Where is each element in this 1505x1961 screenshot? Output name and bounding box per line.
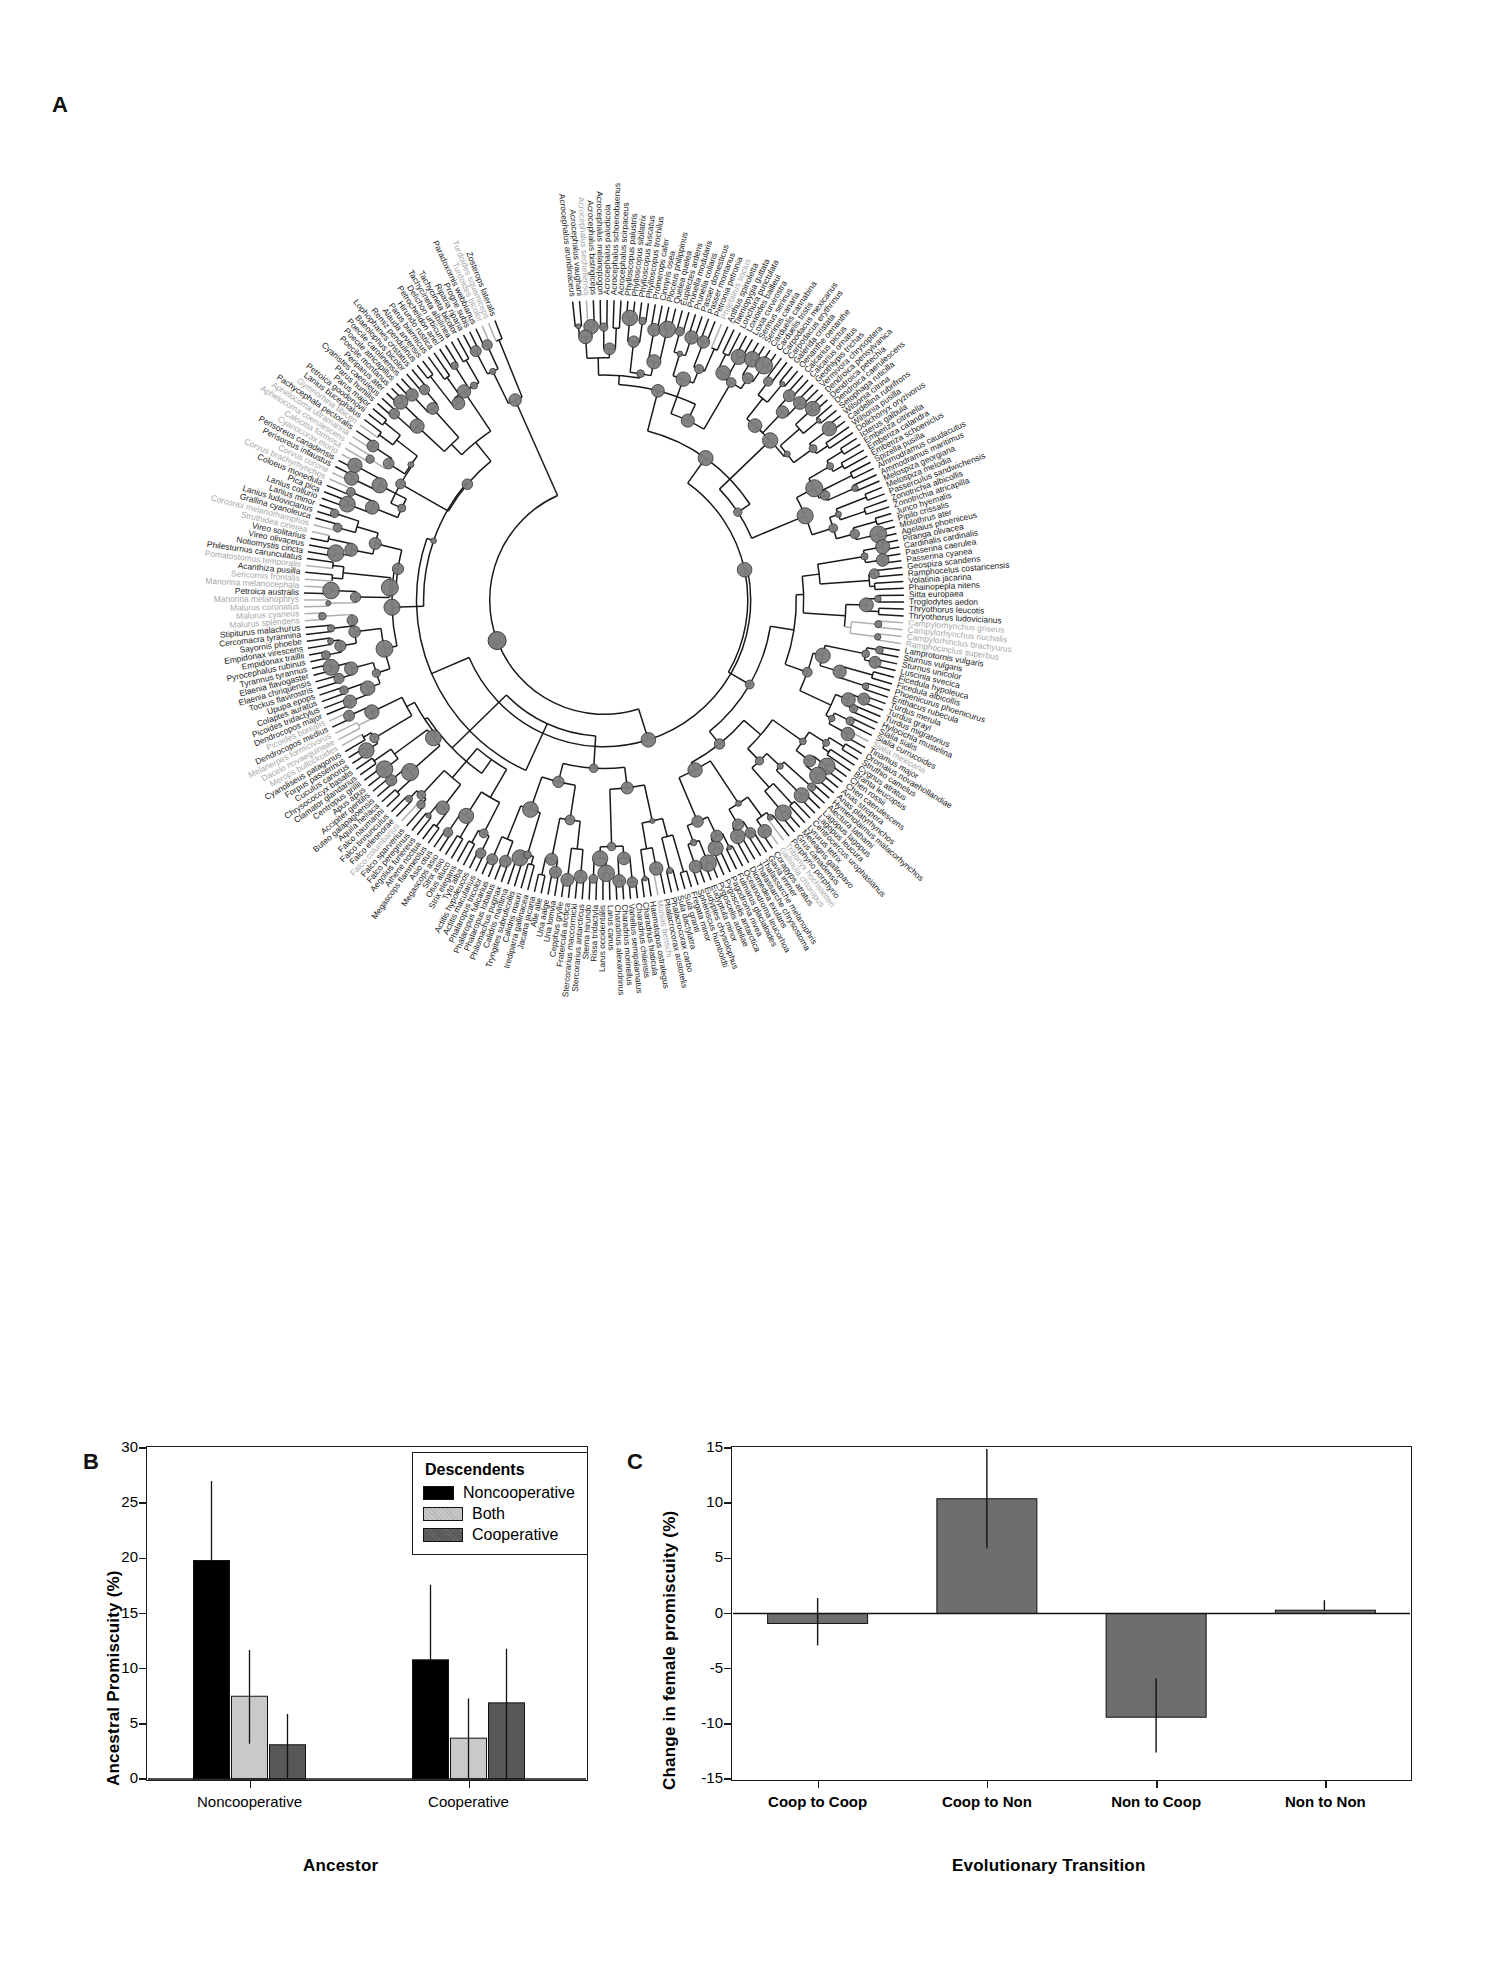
tip-label: Larus canus — [606, 905, 617, 951]
legend-label-noncooperative: Noncooperative — [463, 1485, 575, 1501]
panel-b-y-tick-mark — [139, 1668, 146, 1670]
panel-c-category-label: Coop to Non — [897, 1793, 1077, 1810]
panel-c-plot-frame — [731, 1446, 1412, 1781]
panel-b-y-tick-mark — [139, 1502, 146, 1504]
panel-c-y-tick-mark — [724, 1447, 731, 1449]
panel-c-x-tick-mark — [1156, 1781, 1158, 1788]
panel-b-y-tick-mark — [139, 1778, 146, 1780]
legend-item-both: Both — [423, 1504, 575, 1524]
panel-b-y-tick-mark — [139, 1613, 146, 1615]
panel-c-y-axis-title: Change in female promiscuity (%) — [660, 1511, 680, 1790]
panel-c-category-label: Non to Coop — [1066, 1793, 1246, 1810]
panel-b-y-tick-label: 15 — [100, 1604, 138, 1621]
panel-c-category-label: Coop to Coop — [728, 1793, 908, 1810]
panel-b-letter: B — [83, 1449, 99, 1475]
legend-item-noncooperative: Noncooperative — [423, 1483, 575, 1503]
panel-b-y-tick-label: 20 — [100, 1548, 138, 1565]
legend-swatch-both — [423, 1507, 463, 1521]
panel-b-category-label: Noncooperative — [155, 1793, 345, 1810]
panel-c-y-tick-mark — [724, 1778, 731, 1780]
panel-c-y-tick-mark — [724, 1613, 731, 1615]
panel-c-x-tick-mark — [818, 1781, 820, 1788]
panel-c-letter: C — [627, 1449, 643, 1475]
panel-b-x-axis-title: Ancestor — [303, 1856, 378, 1876]
panel-a-phylogeny: Acrocephalus arundinaceusAcrocephalus va… — [0, 60, 1505, 1100]
panel-b-bar — [413, 1660, 449, 1779]
panel-c-y-tick-label: 5 — [681, 1548, 723, 1565]
phylogenetic-tree-svg: Acrocephalus arundinaceusAcrocephalus va… — [0, 60, 1505, 1100]
panel-c-y-tick-label: 0 — [681, 1604, 723, 1621]
panel-c-y-tick-mark — [724, 1668, 731, 1670]
panel-b-bar — [194, 1561, 230, 1779]
panel-b-legend: Descendents Noncooperative Both Cooperat… — [412, 1452, 588, 1555]
panel-c-x-axis-title: Evolutionary Transition — [952, 1856, 1146, 1876]
panel-c-y-tick-mark — [724, 1558, 731, 1560]
panel-b-y-tick-label: 25 — [100, 1493, 138, 1510]
legend-swatch-cooperative — [423, 1528, 463, 1542]
legend-label-cooperative: Cooperative — [472, 1527, 558, 1543]
legend-title: Descendents — [425, 1461, 575, 1479]
panel-b-y-tick-label: 10 — [100, 1659, 138, 1676]
panel-c-y-tick-mark — [724, 1502, 731, 1504]
panel-c-y-tick-label: -10 — [681, 1714, 723, 1731]
panel-b-category-label: Cooperative — [374, 1793, 564, 1810]
legend-label-both: Both — [472, 1506, 505, 1522]
panel-c-y-tick-label: -15 — [681, 1769, 723, 1786]
panel-c-y-tick-mark — [724, 1723, 731, 1725]
panel-b-y-tick-mark — [139, 1558, 146, 1560]
panel-c-y-tick-label: 15 — [681, 1438, 723, 1455]
panel-b-y-tick-mark — [139, 1723, 146, 1725]
panel-c-category-label: Non to Non — [1235, 1793, 1415, 1810]
panel-b-y-tick-label: 30 — [100, 1438, 138, 1455]
legend-swatch-noncooperative — [423, 1486, 454, 1500]
panel-a-letter: A — [52, 92, 68, 118]
panel-c-y-tick-label: -5 — [681, 1659, 723, 1676]
panel-b-x-tick-mark — [469, 1781, 471, 1788]
panel-c-x-tick-mark — [1325, 1781, 1327, 1788]
panel-b-y-tick-label: 5 — [100, 1714, 138, 1731]
panel-c-y-tick-label: 10 — [681, 1493, 723, 1510]
panel-b-x-tick-mark — [250, 1781, 252, 1788]
panel-b-y-tick-mark — [139, 1447, 146, 1449]
panel-b-y-tick-label: 0 — [100, 1769, 138, 1786]
panel-c-x-tick-mark — [987, 1781, 989, 1788]
panel-c-bars-svg — [731, 1446, 1412, 1781]
legend-item-cooperative: Cooperative — [423, 1525, 575, 1545]
